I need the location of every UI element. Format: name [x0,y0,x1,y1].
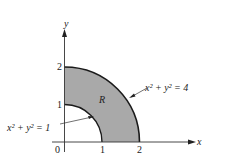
origin-label: 0 [55,144,60,155]
outer-leader-arrow-icon [129,94,136,99]
x-tick-1: 1 [100,144,105,155]
diagram: y x 0 1 2 1 2 R x² + y² = 4 x² + y² = 1 [0,0,229,162]
y-tick-1: 1 [57,99,62,110]
y-axis-label: y [63,18,69,29]
region-label: R [98,94,105,105]
inner-equation: x² + y² = 1 [6,122,50,133]
x-axis-arrow-icon [188,140,196,145]
x-tick-2: 2 [137,144,142,155]
x-axis-label: x [196,136,202,147]
y-axis-arrow-icon [62,29,67,37]
y-tick-2: 2 [57,61,62,72]
outer-equation: x² + y² = 4 [144,82,188,93]
